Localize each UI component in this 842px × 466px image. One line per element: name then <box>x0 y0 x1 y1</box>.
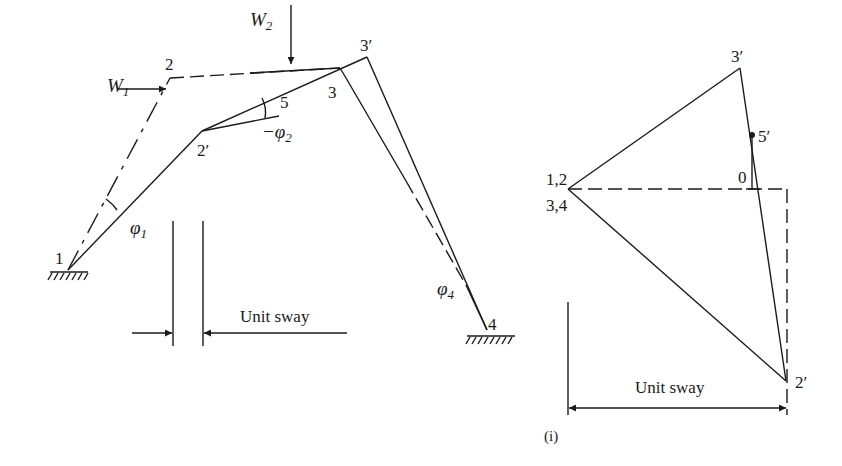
w2-label: W2 <box>250 9 273 33</box>
line-origin-3p <box>568 68 740 189</box>
original-column-3-4-dashed <box>406 181 466 285</box>
phi1-label: φ1 <box>130 217 147 241</box>
phi4-label: φ4 <box>437 278 455 302</box>
original-joint-3 <box>340 68 346 78</box>
node-2p-label: 2′ <box>197 141 209 160</box>
node-3p-diagram-label: 3′ <box>731 47 743 66</box>
original-beam-2-3-solid <box>250 68 340 73</box>
node-3-label: 3 <box>328 83 337 102</box>
w1-label: W1 <box>107 75 129 99</box>
point-5p <box>749 132 755 138</box>
zero-label: 0 <box>738 168 747 187</box>
figure-caption: (i) <box>544 428 558 445</box>
sway-mechanism-figure: W1 W2 2 2′ 5 3 3′ 1 4 φ1 −φ2 φ4 Unit swa… <box>0 0 842 466</box>
node-2-label: 2 <box>165 55 174 74</box>
origin-label-1-2: 1,2 <box>546 170 567 189</box>
displaced-column-1-2p <box>68 131 202 270</box>
right-unit-sway-label: Unit sway <box>635 378 705 397</box>
origin-label-3-4: 3,4 <box>546 196 568 215</box>
node-1-label: 1 <box>55 249 64 268</box>
node-5-label: 5 <box>280 93 289 112</box>
node-2p-diagram-label: 2′ <box>795 373 807 392</box>
phi2-angle-arc <box>262 98 266 118</box>
original-column-3-4-upper <box>346 78 406 181</box>
left-unit-sway-label: Unit sway <box>240 307 310 326</box>
support-4-hatch <box>466 336 515 344</box>
left-frame: W1 W2 2 2′ 5 3 3′ 1 4 φ1 −φ2 φ4 Unit swa… <box>48 5 515 346</box>
node-5p-diagram-label: 5′ <box>758 127 770 146</box>
displacement-diagram: 1,2 3,4 3′ 5′ 0 2′ Unit sway (i) <box>544 47 807 445</box>
displaced-column-3p-4 <box>367 57 487 330</box>
node-3p-label: 3′ <box>360 36 372 55</box>
line-origin-2p <box>568 189 786 381</box>
support-1-hatch <box>48 272 88 280</box>
node-4-label: 4 <box>488 315 497 334</box>
original-column-1-2 <box>68 78 170 270</box>
phi2-label: −φ2 <box>262 121 292 145</box>
line-3p-2p <box>740 68 786 381</box>
phi1-angle-arc <box>106 199 117 210</box>
